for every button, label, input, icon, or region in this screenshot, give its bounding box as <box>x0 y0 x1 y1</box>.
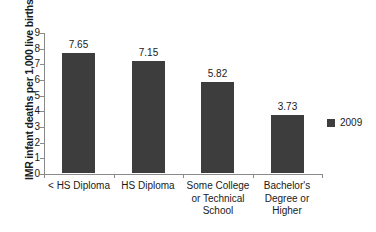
y-tick-label: 5 <box>26 89 40 102</box>
y-tick-mark <box>40 143 44 144</box>
y-tick-mark <box>40 96 44 97</box>
bar: 7.15 <box>132 61 165 173</box>
x-category-label-line: School <box>180 205 256 218</box>
chart-legend: 2009 <box>327 117 362 129</box>
y-tick-label: 4 <box>26 104 40 117</box>
bar-value-label: 7.15 <box>139 47 158 59</box>
y-tick-label: 7 <box>26 57 40 70</box>
x-category-label: Bachelor'sDegree orHigher <box>249 180 325 218</box>
x-category-label-line: Bachelor's <box>249 180 325 193</box>
y-tick-mark <box>40 111 44 112</box>
x-category-label-line: Higher <box>249 205 325 218</box>
x-tick-mark <box>44 174 45 178</box>
x-category-label: HS Diploma <box>110 180 186 193</box>
y-tick-label: 6 <box>26 73 40 86</box>
y-axis-line <box>44 33 45 175</box>
x-tick-mark <box>322 174 323 178</box>
x-category-label-line: or Technical <box>180 193 256 206</box>
y-tick-label: 9 <box>26 26 40 39</box>
bar-chart: IMR infant deaths per 1,000 live births … <box>0 0 376 232</box>
legend-label-2009: 2009 <box>340 117 362 129</box>
plot-area: 0123456789 7.657.155.823.73 < HS Diploma… <box>44 33 322 174</box>
y-tick-label: 0 <box>26 167 40 180</box>
x-category-label-line: < HS Diploma <box>41 180 117 193</box>
y-tick-mark <box>40 49 44 50</box>
bar-value-label: 5.82 <box>208 68 227 80</box>
bar-value-label: 7.65 <box>69 39 88 51</box>
y-tick-label: 1 <box>26 151 40 164</box>
bar: 5.82 <box>201 82 234 173</box>
x-category-label-line: Degree or <box>249 193 325 206</box>
y-tick-mark <box>40 33 44 34</box>
x-tick-mark <box>183 174 184 178</box>
x-category-label: Some Collegeor TechnicalSchool <box>180 180 256 218</box>
x-category-label-line: Some College <box>180 180 256 193</box>
y-tick-label: 2 <box>26 136 40 149</box>
x-category-label-line: HS Diploma <box>110 180 186 193</box>
legend-swatch-2009 <box>327 119 335 127</box>
y-tick-mark <box>40 127 44 128</box>
x-category-label: < HS Diploma <box>41 180 117 193</box>
x-tick-mark <box>114 174 115 178</box>
bar-value-label: 3.73 <box>278 101 297 113</box>
y-tick-mark <box>40 80 44 81</box>
y-tick-label: 8 <box>26 42 40 55</box>
y-tick-mark <box>40 64 44 65</box>
bar: 7.65 <box>62 53 95 173</box>
x-tick-mark <box>253 174 254 178</box>
y-tick-label: 3 <box>26 120 40 133</box>
y-tick-mark <box>40 158 44 159</box>
bar: 3.73 <box>271 115 304 173</box>
